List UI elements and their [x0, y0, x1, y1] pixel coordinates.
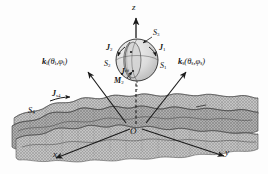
s1-sub: 1 [164, 65, 166, 70]
ki-args-close: ) [65, 56, 68, 66]
j2eff-sub: 2 [129, 71, 131, 76]
scattered-wave-vector-label: ks(θs,φs) [178, 57, 205, 67]
surface-current-js4-label: Js4 [52, 90, 60, 99]
magnetic-current-m2-label: M2 [114, 77, 124, 86]
incident-wave-vector-label: ki(θi,φi) [42, 57, 67, 67]
j1-sub: 1 [163, 47, 165, 52]
z-axis-label: z [132, 3, 136, 12]
js4-sub: s4 [56, 93, 60, 98]
s3-sub: 3 [157, 32, 159, 37]
effective-current-j2-label: Jeff2 [121, 68, 132, 77]
ks-args-close: ) [202, 56, 205, 66]
current-j2-label: J2 [106, 44, 112, 53]
s4-sub: 4 [32, 109, 35, 115]
y-axis-label: y [225, 148, 229, 157]
s2-sub: 2 [108, 63, 110, 68]
current-j1-label: J1 [159, 44, 165, 53]
x-axis-label: x [53, 150, 57, 159]
j2-sub: 2 [110, 47, 112, 52]
surface-s3-label: S3 [153, 29, 159, 38]
scattering-geometry-figure: z x y O ki(θi,φi) ks(θs,φs) S3 J1 J2 S1 … [0, 0, 268, 174]
surface-s2-label: S2 [104, 60, 110, 69]
surface-s1-label: S1 [160, 62, 166, 71]
m2-sub: 2 [121, 80, 123, 85]
surface-s4-label: S4 [28, 106, 35, 116]
ki-args-open: (θ [48, 56, 55, 66]
ki-args-mid: ,φ [56, 56, 63, 66]
origin-label: O [130, 127, 137, 136]
